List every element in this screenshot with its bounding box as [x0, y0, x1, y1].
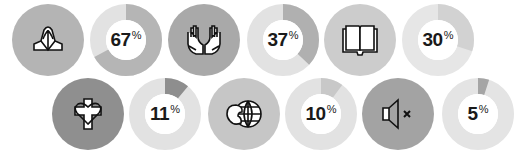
- cross-heart-icon: [68, 94, 108, 134]
- open-book-badge: [324, 4, 396, 76]
- donut-10: 10%: [285, 78, 357, 150]
- donut-37: 37%: [247, 4, 319, 76]
- donut-5: 5%: [442, 78, 514, 150]
- globe-icon: [224, 94, 264, 134]
- percent-value: 37: [268, 29, 288, 51]
- percent-value: 11: [150, 103, 169, 125]
- percent-value: 67: [111, 29, 131, 51]
- percent-value: 5: [468, 103, 478, 125]
- praying-hands-icon: [28, 20, 68, 60]
- globe-badge: [208, 78, 280, 150]
- percent-value: 10: [306, 103, 326, 125]
- muted-speaker-icon: [378, 94, 418, 134]
- muted-speaker-badge: [362, 78, 434, 150]
- percent-value: 30: [423, 29, 443, 51]
- open-book-icon: [340, 20, 380, 60]
- donut-11: 11%: [129, 78, 201, 150]
- open-hands-icon: [184, 20, 224, 60]
- open-hands-badge: [168, 4, 240, 76]
- donut-67: 67%: [90, 4, 162, 76]
- cross-heart-badge: [52, 78, 124, 150]
- praying-hands-badge: [12, 4, 84, 76]
- donut-30: 30%: [402, 4, 474, 76]
